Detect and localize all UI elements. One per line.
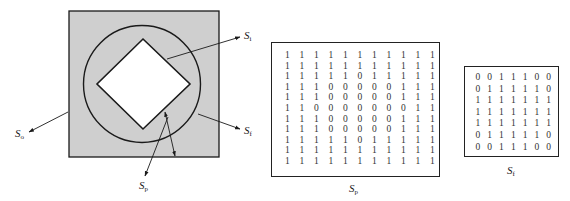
label-s-f: Sf [244,125,252,138]
matrix-cell: 0 [543,73,555,85]
matrix-cell: 1 [295,51,310,62]
matrix-cell: 1 [519,131,531,143]
matrix-cell: 0 [472,73,484,85]
matrix-cell: 0 [484,73,496,85]
matrix-sp-box: 1111111111111111111111111110111111110000… [271,42,440,177]
matrix-cell: 1 [496,143,508,155]
matrix-cell: 0 [324,104,339,115]
matrix-cell: 1 [519,143,531,155]
matrix-cell: 1 [309,51,324,62]
label-s-i: Si [244,30,251,43]
matrix-cell: 0 [338,104,353,115]
matrix-cell: 1 [496,131,508,143]
matrix-cell: 1 [338,157,353,168]
matrix-sf: 0011100011111011111111111111111111101111… [472,73,555,154]
matrix-cell: 1 [280,157,295,168]
matrix-cell: 1 [411,104,426,115]
matrix-cell: 1 [382,51,397,62]
matrix-cell: 0 [396,104,411,115]
label-s-o: So [15,128,24,141]
matrix-cell: 0 [531,73,543,85]
matrix-cell: 1 [295,104,310,115]
matrix-cell: 0 [309,104,324,115]
matrix-cell: 1 [396,51,411,62]
matrix-sf-label: Sf [507,165,515,178]
matrix-cell: 1 [507,143,519,155]
matrix-cell: 1 [507,131,519,143]
matrix-cell: 1 [411,51,426,62]
matrix-cell: 1 [324,157,339,168]
matrix-cell: 1 [280,104,295,115]
matrix-sp-label: Sp [349,183,358,196]
region-diagram [0,0,270,201]
matrix-cell: 1 [280,51,295,62]
matrix-cell: 0 [484,143,496,155]
matrix-cell: 1 [367,157,382,168]
matrix-cell: 1 [295,157,310,168]
matrix-cell: 1 [425,104,440,115]
matrix-cell: 1 [531,131,543,143]
matrix-cell: 1 [425,157,440,168]
matrix-cell: 1 [496,73,508,85]
matrix-cell: 0 [353,104,368,115]
matrix-cell: 0 [382,104,397,115]
arrow-so [29,112,68,132]
matrix-cell: 0 [472,131,484,143]
label-s-p: Sp [139,180,148,193]
matrix-cell: 1 [353,51,368,62]
matrix-cell: 1 [411,157,426,168]
matrix-cell: 1 [382,157,397,168]
matrix-cell: 1 [425,51,440,62]
matrix-cell: 1 [484,131,496,143]
matrix-cell: 0 [472,143,484,155]
matrix-cell: 0 [367,104,382,115]
matrix-sp: 1111111111111111111111111110111111110000… [280,51,440,168]
matrix-cell: 1 [309,157,324,168]
matrix-sf-box: 0011100011111011111111111111111111101111… [464,66,559,157]
matrix-cell: 1 [338,51,353,62]
matrix-cell: 0 [531,143,543,155]
matrix-cell: 1 [396,157,411,168]
matrix-cell: 0 [543,143,555,155]
matrix-cell: 1 [353,157,368,168]
matrix-cell: 1 [519,73,531,85]
matrix-cell: 0 [543,131,555,143]
matrix-cell: 1 [507,73,519,85]
matrix-cell: 1 [324,51,339,62]
matrix-cell: 1 [367,51,382,62]
